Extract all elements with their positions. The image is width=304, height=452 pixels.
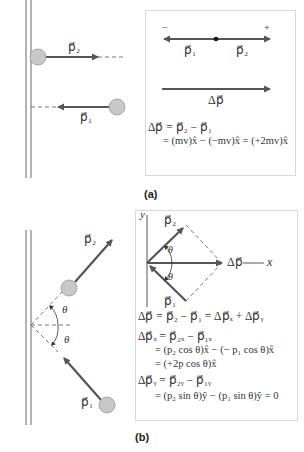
x-axis-label: x [267,255,272,270]
dashed-p2-to-dp [186,225,222,263]
y-axis-label: y [140,208,145,220]
box-theta-lower: θ [168,271,173,282]
box-b-p2-arrow [147,228,183,263]
dashed-p1-to-dp [186,263,222,301]
panel-b-label: (b) [135,431,149,443]
eq-b-6: = (p₂ sin θ)ŷ − (p₁ sin θ)ŷ = 0 [155,389,279,403]
box-b-dp-label: Δp⃗ [227,255,243,270]
box-theta-upper: θ [168,244,173,255]
box-b-p2-label: p⃗₂ [164,213,176,228]
box-b-p1-label: p⃗₁ [164,294,176,309]
eq-b-4: = (+2p cos θ)x̂ [155,357,217,371]
eq-b-5: Δp⃗ᵧ = p⃗₂ᵧ − p⃗₁ᵧ [138,373,211,387]
eq-b-1: Δp⃗ = p⃗₂ − p⃗₁ = Δp⃗ₓ + Δp⃗ᵧ [138,309,264,323]
eq-b-3: = (p₂ cos θ)x̂ − (− p₁ cos θ)x̂ [155,343,274,357]
eq-b-2: Δp⃗ₓ = p⃗₂ₓ − p⃗₁ₓ [138,329,212,343]
